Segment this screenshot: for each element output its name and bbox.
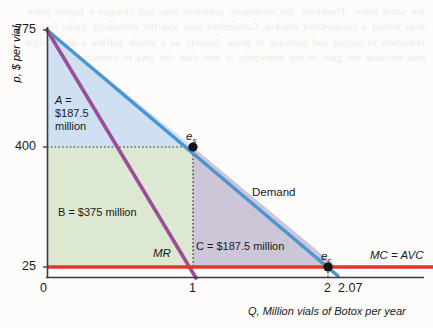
region-c-label-text: C = $187.5 million [196,240,284,252]
figure-canvas: the same price. Therefore, the monopoly … [0,0,433,328]
y-tick-label-25: 25 [22,259,36,274]
demand-curve-label: Demand [252,186,295,200]
y-tick-label-775: 775 [15,22,36,37]
region-a-label-line3: million [55,120,89,133]
y-tick-label-400: 400 [15,139,36,154]
x-tick-label-207: 2.07 [338,281,362,296]
point-es-label: es [186,130,196,146]
x-axis-title: Q, Million vials of Botox per year [248,305,406,318]
x-axis-title-text: Q, Million vials of Botox per year [248,305,406,317]
region-c-label: C = $187.5 million [196,240,284,253]
point-ec-label: ec [321,250,331,266]
mr-curve-label: MR [153,247,171,261]
mc-avc-curve-label: MC = AVC [370,249,424,263]
region-a-label-line2: $187.5 [55,107,89,120]
region-b-label-text: B = $375 million [58,206,137,218]
region-b-label: B = $375 million [58,206,137,219]
chart-svg [0,0,433,328]
region-a-label: A = $187.5 million [55,94,89,133]
x-tick-label-1: 1 [189,281,196,296]
x-origin-label: 0 [40,281,47,296]
x-tick-label-2: 2 [324,281,331,296]
point-ec-subscript: c [327,256,331,265]
region-a-label-line1: A = [55,94,71,106]
point-es-subscript: s [192,136,196,145]
